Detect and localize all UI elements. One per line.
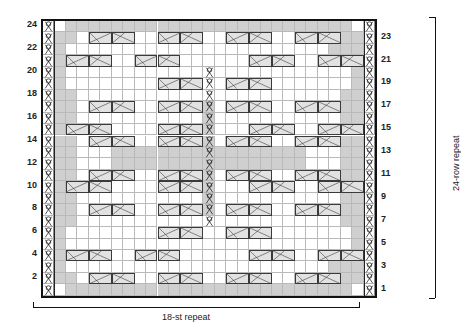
row-repeat-label: 24-row repeat bbox=[451, 136, 461, 192]
stitch-repeat-label: 18-st repeat bbox=[162, 312, 210, 322]
